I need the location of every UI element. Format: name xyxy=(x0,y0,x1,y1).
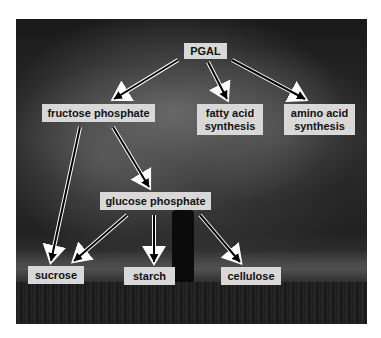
node-amino-acid-synthesis: amino acid synthesis xyxy=(284,104,355,135)
arrow-pgal-to-amino-acid xyxy=(232,60,305,99)
arrow-glucose-to-cellulose xyxy=(200,215,240,262)
node-fatty-acid-synthesis: fatty acid synthesis xyxy=(197,104,263,135)
arrow-fructose-to-sucrose xyxy=(51,127,80,261)
arrow-pgal-to-fatty-acid xyxy=(208,62,227,99)
arrow-glucose-to-sucrose xyxy=(74,215,127,261)
node-fructose-phosphate: fructose phosphate xyxy=(42,104,155,122)
arrow-fructose-to-glucose xyxy=(113,127,149,187)
node-starch: starch xyxy=(124,267,175,285)
node-sucrose: sucrose xyxy=(28,266,84,284)
arrow-pgal-to-fructose xyxy=(114,60,178,99)
node-glucose-phosphate: glucose phosphate xyxy=(100,192,211,210)
node-cellulose: cellulose xyxy=(221,267,281,285)
node-pgal: PGAL xyxy=(184,43,227,59)
